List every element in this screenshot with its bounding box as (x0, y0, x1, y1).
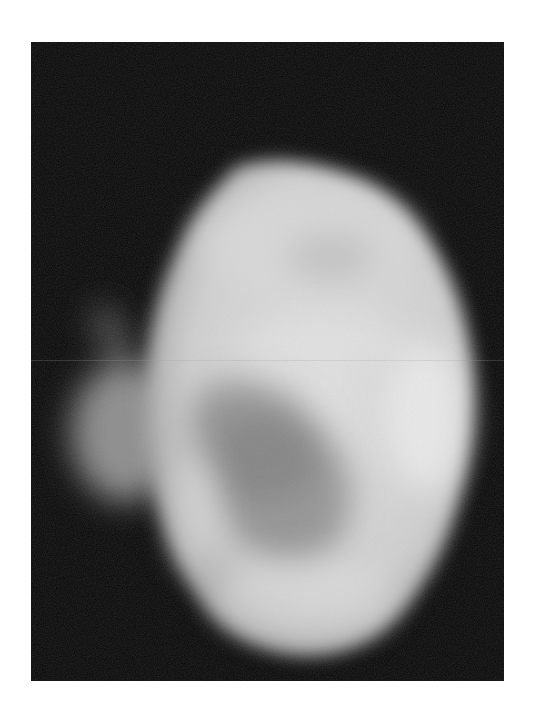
radiograph-image (31, 42, 504, 681)
radiograph-frame (31, 42, 504, 681)
scan-line-artifact (31, 360, 504, 361)
image-description: Grayscale radiograph of a rounded, egg-s… (0, 0, 1, 1)
